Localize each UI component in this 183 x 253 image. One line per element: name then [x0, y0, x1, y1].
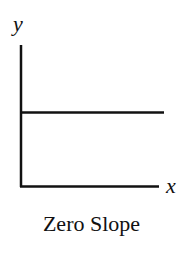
diagram-caption: Zero Slope — [0, 213, 183, 235]
y-axis-label: y — [13, 13, 23, 35]
x-axis-label: x — [166, 175, 176, 197]
